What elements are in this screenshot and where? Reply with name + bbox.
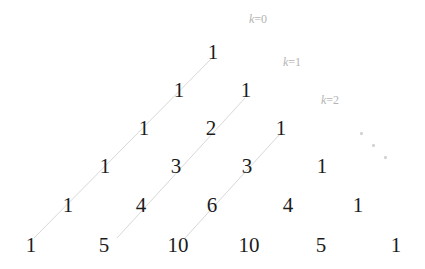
k-label-value: =0: [254, 12, 267, 26]
triangle-entry: 1: [100, 156, 111, 177]
pascals-triangle-figure: 11112113311464115101051 k=0k=1k=2: [0, 0, 425, 269]
triangle-entry: 1: [317, 156, 328, 177]
triangle-entry: 1: [241, 80, 252, 101]
triangle-entry: 1: [63, 195, 74, 216]
triangle-entry: 5: [316, 235, 327, 256]
k-label-2: k=2: [321, 94, 339, 106]
triangle-entry: 3: [242, 156, 253, 177]
triangle-entry: 4: [283, 195, 294, 216]
triangle-entry: 1: [174, 80, 185, 101]
k-label-0: k=0: [249, 13, 267, 25]
k-label-1: k=1: [283, 56, 301, 68]
triangle-entry: 2: [206, 118, 217, 139]
triangle-entry: 10: [168, 235, 189, 256]
k-label-value: =1: [288, 55, 301, 69]
triangle-entry: 5: [99, 235, 110, 256]
triangle-entry: 4: [136, 195, 147, 216]
triangle-entry: 1: [139, 118, 150, 139]
k-label-value: =2: [326, 93, 339, 107]
triangle-entry: 1: [353, 195, 364, 216]
diagonal-line-k0: [34, 58, 212, 238]
triangle-entry: 1: [208, 42, 219, 63]
triangle-entry: 1: [26, 235, 37, 256]
triangle-entry: 10: [239, 235, 260, 256]
diagonal-line-k2: [185, 134, 280, 238]
triangle-entry: 1: [391, 235, 402, 256]
triangle-entry: 6: [207, 195, 218, 216]
triangle-entry: 1: [276, 118, 287, 139]
triangle-entry: 3: [171, 156, 182, 177]
